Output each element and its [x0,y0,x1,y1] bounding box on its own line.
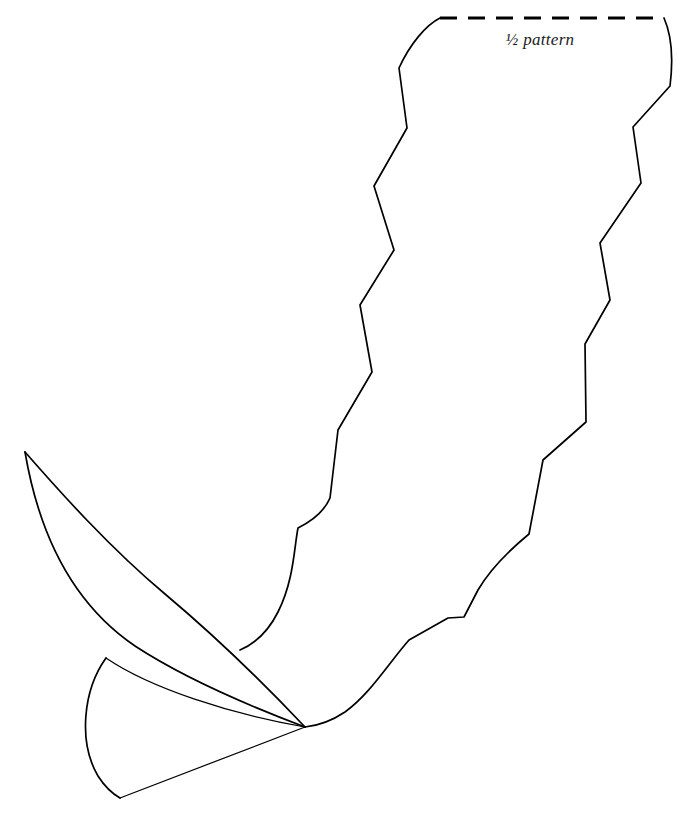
fold-line-label: ½ pattern [506,30,575,49]
paper-background [0,0,683,816]
pattern-drawing-canvas: ½ pattern [0,0,683,816]
